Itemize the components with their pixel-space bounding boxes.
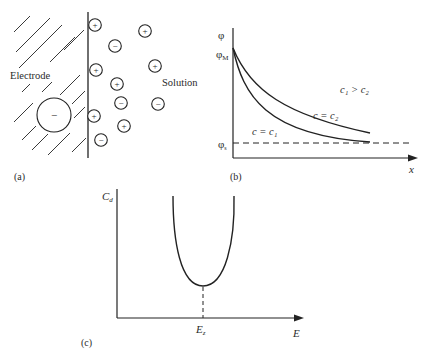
condition-label: c₁ > c₂ <box>340 84 369 95</box>
cation-icon: + <box>118 120 131 133</box>
ion-sign: − <box>98 135 103 145</box>
cation-icon: + <box>149 60 162 73</box>
electrode-label: Electrode <box>10 70 51 81</box>
phi-s-label: φs <box>218 138 227 151</box>
e-axis-label: E <box>292 327 300 339</box>
panel-c-label: (c) <box>81 337 92 349</box>
cation-icon: + <box>88 110 101 123</box>
ion-sign: − <box>112 41 117 51</box>
ion-sign: + <box>93 65 98 75</box>
ion-sign: + <box>92 20 97 30</box>
ion-sign: + <box>121 121 126 131</box>
panel-c: Cd E Ez (c) <box>81 189 304 349</box>
ion-list: ++−+++−−++− <box>88 19 165 147</box>
electrode-hatching <box>14 16 86 155</box>
cation-icon: + <box>111 78 124 91</box>
anion-icon: − <box>109 40 122 53</box>
ion-sign: − <box>118 98 123 108</box>
x-axis-arrow-icon <box>408 155 418 162</box>
phi-m-label: φM <box>216 48 229 62</box>
electrode-charge-sign: − <box>51 109 57 121</box>
cation-icon: + <box>90 64 103 77</box>
x-axis-label: x <box>408 163 414 175</box>
capacitance-curve <box>173 196 234 286</box>
solution-label: Solution <box>162 77 198 88</box>
pzc-label: Ez <box>195 323 206 337</box>
panel-a-label: (a) <box>14 171 25 183</box>
panel-a: − Electrode Solution (a) ++−+++−−++− <box>8 12 198 183</box>
panel-b-label: (b) <box>230 171 242 183</box>
panel-b: φ φM φs x c₁ > c₂ c = c₂ c = c₁ (b) <box>216 28 418 183</box>
cation-icon: + <box>139 25 152 38</box>
figure-canvas: − Electrode Solution (a) ++−+++−−++− φ φ… <box>0 0 430 357</box>
ion-sign: + <box>114 79 119 89</box>
ion-sign: + <box>152 61 157 71</box>
curve-c2-label: c = c₂ <box>313 110 339 121</box>
curve-c1-label: c = c₁ <box>252 126 277 137</box>
e-axis-arrow-icon <box>294 315 304 322</box>
ion-sign: + <box>91 111 96 121</box>
cation-icon: + <box>89 19 102 32</box>
ion-sign: − <box>155 99 160 109</box>
anion-icon: − <box>95 134 108 147</box>
anion-icon: − <box>115 97 128 110</box>
anion-icon: − <box>152 98 165 111</box>
cd-axis-label: Cd <box>102 190 113 204</box>
phi-axis-label: φ <box>218 29 224 41</box>
ion-sign: + <box>142 26 147 36</box>
